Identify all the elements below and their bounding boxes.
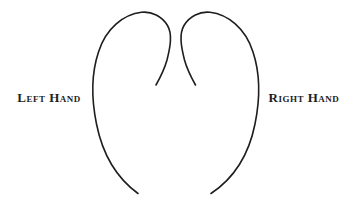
- left-hand-curve: [93, 12, 171, 193]
- right-hand-curve: [181, 12, 259, 193]
- right-hand-label: Right Hand: [269, 90, 340, 106]
- hand-curves-diagram: Left Hand Right Hand: [0, 0, 353, 205]
- left-hand-label: Left Hand: [17, 90, 81, 106]
